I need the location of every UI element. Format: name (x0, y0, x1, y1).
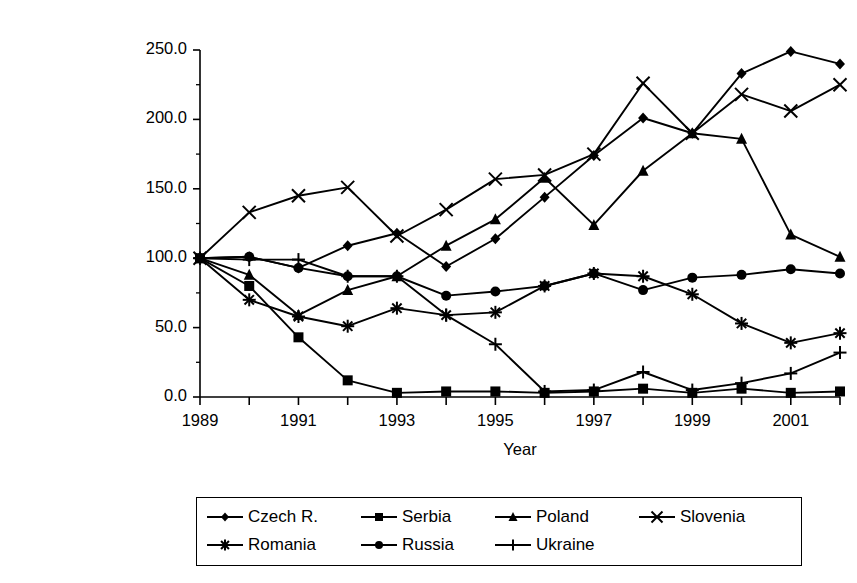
line-chart-plot (0, 0, 857, 583)
x-tick-label: 1993 (357, 411, 437, 430)
legend-swatch-diamond (205, 508, 245, 526)
data-point-square (441, 386, 451, 396)
data-point-triangle (441, 240, 452, 251)
x-tick-label: 1999 (652, 411, 732, 430)
data-point-plus (292, 253, 305, 266)
data-point-triangle (638, 165, 649, 176)
data-point-square (392, 388, 402, 398)
data-point-square (638, 384, 648, 394)
chart-figure: Index of passenger car production (1989 … (0, 0, 857, 583)
data-point-asterisk (686, 288, 699, 301)
y-tick-label: 50.0 (82, 317, 187, 336)
data-point-circle (737, 270, 747, 280)
legend-entry-serbia[interactable]: Serbia (359, 507, 489, 527)
data-point-circle (490, 287, 500, 297)
legend-entry-czech-r[interactable]: Czech R. (205, 507, 355, 527)
x-tick-label: 1995 (455, 411, 535, 430)
legend-entry-slovenia[interactable]: Slovenia (637, 507, 787, 527)
y-axis-ticks (193, 50, 200, 397)
legend-row: Czech R.SerbiaPolandSlovenia (205, 503, 793, 531)
y-tick-label: 250.0 (82, 39, 187, 58)
data-point-cross-x (243, 206, 256, 219)
chart-legend: Czech R.SerbiaPolandSloveniaRomaniaRussi… (196, 497, 802, 566)
data-point-cross-x (440, 203, 453, 216)
series-poland (195, 127, 846, 320)
data-point-plus (784, 367, 797, 380)
data-point-asterisk (489, 306, 502, 319)
data-point-asterisk (784, 336, 797, 349)
legend-label: Russia (402, 535, 454, 555)
data-point-cross-x (784, 105, 797, 118)
series-czech-r (195, 46, 845, 274)
data-point-circle (638, 285, 648, 295)
data-point-plus (341, 270, 354, 283)
data-point-plus (834, 346, 847, 359)
x-tick-label: 1991 (258, 411, 338, 430)
data-point-square (835, 386, 845, 396)
data-point-diamond (835, 58, 845, 69)
legend-row: RomaniaRussiaUkraine (205, 531, 793, 559)
y-tick-label: 200.0 (82, 108, 187, 127)
legend-swatch-circle (359, 536, 399, 554)
legend-swatch-plus (493, 536, 533, 554)
data-point-square (244, 281, 254, 291)
data-point-diamond (786, 46, 796, 57)
legend-label: Czech R. (248, 507, 318, 527)
data-point-asterisk (341, 320, 354, 333)
legend-swatch-square (359, 508, 399, 526)
legend-label: Serbia (402, 507, 451, 527)
x-axis-ticks (200, 397, 840, 405)
x-tick-label: 1989 (160, 411, 240, 430)
data-point-cross-x (735, 88, 748, 101)
data-point-cross-x (834, 78, 847, 91)
data-point-plus (508, 540, 519, 551)
data-point-asterisk (292, 310, 305, 323)
data-point-diamond (441, 261, 451, 272)
y-tick-label: 150.0 (82, 178, 187, 197)
data-point-square (786, 388, 796, 398)
data-point-circle (540, 281, 550, 291)
x-tick-label: 2001 (751, 411, 831, 430)
legend-label: Romania (248, 535, 316, 555)
data-point-asterisk (243, 293, 256, 306)
data-point-asterisk (390, 302, 403, 315)
legend-entry-russia[interactable]: Russia (359, 535, 489, 555)
series-slovenia (194, 77, 847, 265)
data-point-circle (687, 273, 697, 283)
data-point-asterisk (637, 270, 650, 283)
data-point-triangle (785, 229, 796, 240)
data-point-circle (375, 541, 383, 549)
data-point-square (375, 513, 383, 521)
data-point-circle (786, 264, 796, 274)
data-point-circle (589, 268, 599, 278)
legend-label: Ukraine (536, 535, 595, 555)
legend-entry-poland[interactable]: Poland (493, 507, 633, 527)
data-point-circle (835, 268, 845, 278)
legend-swatch-triangle (493, 508, 533, 526)
data-point-circle (441, 291, 451, 301)
legend-entry-ukraine[interactable]: Ukraine (493, 535, 643, 555)
data-point-asterisk (735, 317, 748, 330)
data-point-plus (637, 366, 650, 379)
data-point-asterisk (834, 327, 847, 340)
data-point-square (343, 375, 353, 385)
legend-label: Slovenia (680, 507, 745, 527)
data-point-square (293, 332, 303, 342)
x-tick-label: 1997 (554, 411, 634, 430)
data-point-triangle (835, 251, 846, 262)
data-point-square (490, 386, 500, 396)
legend-entry-romania[interactable]: Romania (205, 535, 355, 555)
legend-swatch-asterisk (205, 536, 245, 554)
data-point-asterisk (220, 540, 231, 551)
data-point-diamond (343, 240, 353, 251)
data-point-cross-x (637, 77, 650, 90)
y-tick-label: 0.0 (82, 386, 187, 405)
legend-swatch-cross-x (637, 508, 677, 526)
y-tick-label: 100.0 (82, 247, 187, 266)
data-point-diamond (221, 513, 229, 522)
legend-label: Poland (536, 507, 589, 527)
axis-lines (200, 50, 840, 397)
